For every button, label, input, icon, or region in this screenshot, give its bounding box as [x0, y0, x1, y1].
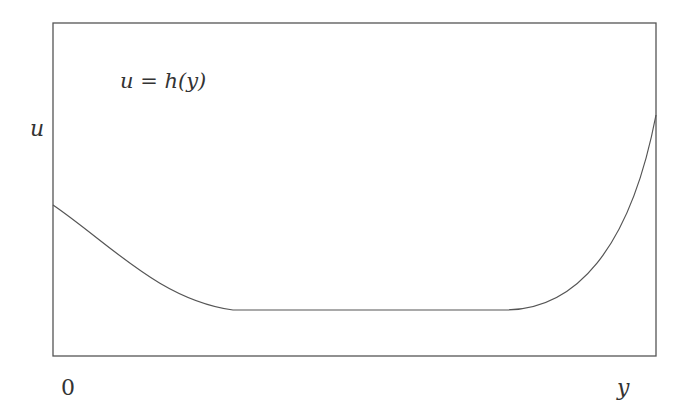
- x-axis-origin-label: 0: [61, 377, 75, 399]
- curve-h-of-y: [53, 115, 656, 310]
- x-axis-end-label: y: [617, 377, 629, 399]
- diagram: u = h(y) u 0 y: [0, 0, 690, 418]
- y-axis-label: u: [30, 118, 44, 140]
- plot-svg: [0, 0, 690, 418]
- curve-label: u = h(y): [120, 71, 206, 92]
